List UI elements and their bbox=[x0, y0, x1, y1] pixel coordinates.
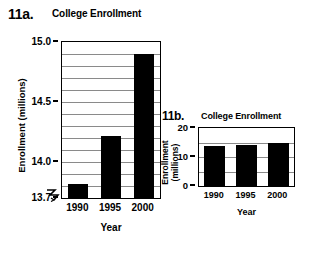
y-tick-mark bbox=[53, 100, 58, 102]
y-tick-mark bbox=[190, 184, 195, 186]
x-tick-label: 2000 bbox=[132, 202, 154, 213]
x-axis-label-a: Year bbox=[61, 222, 161, 233]
bar-2000 bbox=[268, 143, 289, 186]
chart-title-b: College Enrollment bbox=[201, 111, 281, 121]
figure-container: 11a. College Enrollment Enrollment (mill… bbox=[0, 0, 311, 257]
chart-11b: 11b. College Enrollment Enrollment (mill… bbox=[160, 105, 311, 257]
y-axis-ticks-a: 15.014.514.013.7 bbox=[0, 41, 58, 199]
bar-1990 bbox=[204, 146, 225, 186]
x-axis-ticks-a: 199019952000 bbox=[61, 202, 161, 218]
bar-1995 bbox=[236, 145, 257, 186]
chart-11a: 11a. College Enrollment Enrollment (mill… bbox=[0, 0, 175, 257]
y-axis-ticks-b: 20100 bbox=[168, 127, 195, 187]
x-tick-label: 2000 bbox=[267, 190, 287, 200]
y-tick-mark bbox=[190, 155, 195, 157]
x-axis-label-b: Year bbox=[198, 207, 295, 217]
x-tick-label: 1995 bbox=[235, 190, 255, 200]
plot-area-a bbox=[61, 41, 161, 199]
y-tick-mark bbox=[190, 126, 195, 128]
bar-2000 bbox=[134, 54, 154, 198]
bar-1990 bbox=[68, 184, 88, 198]
axis-break-icon bbox=[46, 186, 64, 202]
x-tick-label: 1995 bbox=[99, 202, 121, 213]
panel-label-a: 11a. bbox=[8, 6, 33, 22]
y-tick-mark bbox=[53, 160, 58, 162]
x-axis-ticks-b: 199019952000 bbox=[198, 190, 295, 204]
plot-area-b bbox=[198, 127, 295, 187]
bar-1995 bbox=[101, 136, 121, 198]
x-tick-label: 1990 bbox=[66, 202, 88, 213]
y-tick-mark bbox=[53, 40, 58, 42]
chart-title-a: College Enrollment bbox=[52, 8, 141, 19]
x-tick-label: 1990 bbox=[204, 190, 224, 200]
